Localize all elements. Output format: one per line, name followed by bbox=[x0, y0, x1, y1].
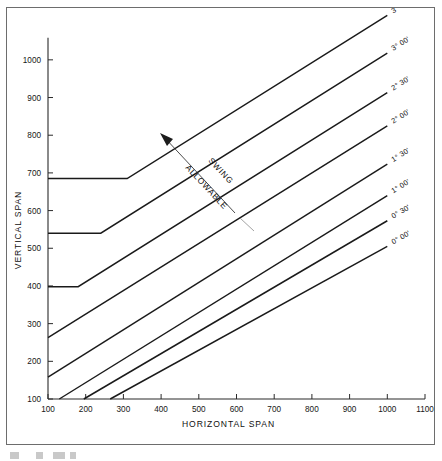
curve-label-4: 1° 30' bbox=[390, 145, 412, 163]
annotation-tail-dash bbox=[240, 218, 254, 231]
y-axis-title: VERTICAL SPAN bbox=[13, 191, 23, 269]
x-tick-label: 500 bbox=[192, 405, 206, 414]
x-tick-label: 1100 bbox=[416, 405, 434, 414]
x-tick-label: 900 bbox=[343, 405, 357, 414]
y-tick-label: 300 bbox=[27, 320, 41, 329]
y-tick-label: 400 bbox=[27, 282, 41, 291]
x-tick-label: 400 bbox=[154, 405, 168, 414]
clip-mark bbox=[70, 452, 76, 459]
swing-allowable-annotation: SWING ALLOWABLE bbox=[160, 133, 254, 231]
y-tick-label: 600 bbox=[27, 207, 41, 216]
clip-mark bbox=[10, 452, 19, 459]
figure-frame: 1002003004005006007008009001000110010020… bbox=[6, 7, 435, 445]
clip-mark bbox=[53, 452, 65, 459]
y-tick-label: 200 bbox=[27, 357, 41, 366]
x-tick-label: 200 bbox=[79, 405, 93, 414]
x-tick-label: 100 bbox=[41, 405, 55, 414]
curve-label-5: 1° 00' bbox=[390, 177, 412, 195]
x-tick-label: 700 bbox=[267, 405, 281, 414]
curves-group bbox=[48, 15, 387, 399]
chart-plot: 1002003004005006007008009001000110010020… bbox=[7, 8, 436, 446]
curve-label-1: 3° 00' bbox=[390, 34, 412, 52]
curve-label-2: 2° 30' bbox=[390, 74, 412, 92]
curve-0 bbox=[48, 15, 387, 178]
clip-mark bbox=[36, 452, 43, 459]
curve-7 bbox=[110, 246, 387, 399]
x-axis-title: HORIZONTAL SPAN bbox=[182, 419, 275, 429]
page-bottom-clipped-marks bbox=[8, 452, 188, 461]
curve-label-6: 0° 30' bbox=[390, 202, 412, 220]
curve-label-7: 0° 00' bbox=[390, 228, 412, 246]
y-tick-label: 100 bbox=[27, 395, 41, 404]
y-tick-label: 1000 bbox=[23, 56, 42, 65]
curve-6 bbox=[84, 221, 387, 399]
curve-label-3: 2° 00' bbox=[390, 107, 412, 125]
x-tick-label: 300 bbox=[117, 405, 131, 414]
curve-5 bbox=[59, 196, 387, 399]
annotation-label-swing: SWING bbox=[207, 156, 236, 186]
curve-label-0: 3° 30' bbox=[390, 8, 412, 15]
y-tick-label: 900 bbox=[27, 94, 41, 103]
y-tick-label: 500 bbox=[27, 244, 41, 253]
curve-labels-group: 3° 30'3° 00'2° 30'2° 00'1° 30'1° 00'0° 3… bbox=[390, 8, 413, 246]
x-tick-label: 1000 bbox=[378, 405, 397, 414]
y-tick-label: 700 bbox=[27, 169, 41, 178]
x-tick-label: 800 bbox=[305, 405, 319, 414]
curve-3 bbox=[48, 126, 387, 338]
y-tick-label: 800 bbox=[27, 131, 41, 140]
curve-1 bbox=[48, 53, 387, 233]
x-tick-label: 600 bbox=[230, 405, 244, 414]
